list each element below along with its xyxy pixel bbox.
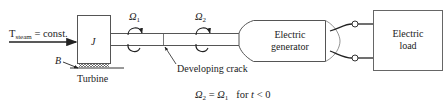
turbine-caption: Turbine [77,73,109,84]
bearing-arrow-icon [63,62,78,68]
crack-label: Developing crack [177,63,248,74]
electric-load: Electric load [374,11,443,71]
turbine: J B Turbine [55,16,124,85]
electric-generator: Electric generator [239,21,340,62]
steam-torque-label: Tsteam = const. [9,28,68,41]
cracked-shaft-diagram: Tsteam = const. J B Turbine Ω1 [0,0,447,106]
rotation-omega1-icon [128,28,142,52]
load-label-line1: Electric [392,28,424,39]
rotation-omega2-icon [196,28,210,52]
crack-pointer-icon [165,47,176,64]
omega2-label: Ω2 [195,11,207,24]
generator-label-line2: generator [271,41,309,52]
bearing-hatch-icon [79,64,109,67]
steam-input: Tsteam = const. [9,28,76,42]
omega1-label: Ω1 [129,11,141,24]
terminal-bottom-icon [352,55,358,61]
shaft: Ω1 Ω2 Developing crack [111,11,248,74]
load-label-line2: load [399,40,416,51]
wires [330,21,373,61]
condition-equation: Ω2 = Ω1 for t < 0 [195,89,270,102]
inertia-label: J [91,36,96,47]
generator-label-line1: Electric [274,29,306,40]
terminal-top-icon [352,21,358,27]
bearing-label: B [55,55,61,66]
